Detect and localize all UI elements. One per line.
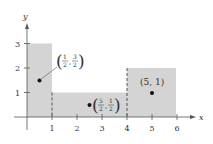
svg-text:,: , <box>105 102 107 110</box>
svg-text:2: 2 <box>73 61 77 68</box>
svg-text:3: 3 <box>73 53 77 60</box>
svg-text:2: 2 <box>109 105 113 112</box>
svg-text:,: , <box>69 58 71 66</box>
y-axis-arrow-icon <box>25 23 29 29</box>
point-3 <box>150 91 154 95</box>
y-tick-label: 2 <box>15 64 20 73</box>
x-tick-label: 3 <box>99 124 104 133</box>
svg-text:(: ( <box>92 95 99 115</box>
x-tick-label: 2 <box>74 124 79 133</box>
chart: 1 2 3 4 5 6 1 2 3 x y ( 1 2 , 3 2 ) ( 5 … <box>0 0 213 144</box>
x-axis-arrow-icon <box>190 115 196 119</box>
svg-text:2: 2 <box>99 105 103 112</box>
point-3-label: (5, 1) <box>140 77 164 87</box>
x-tick-label: 6 <box>174 124 179 133</box>
svg-text:1: 1 <box>63 53 67 60</box>
x-tick-label: 1 <box>49 124 54 133</box>
svg-text:): ) <box>78 51 85 71</box>
x-tick-label: 5 <box>149 124 154 133</box>
svg-text:5: 5 <box>99 97 103 104</box>
svg-text:2: 2 <box>63 61 67 68</box>
point-2 <box>88 103 92 107</box>
x-tick-label: 4 <box>124 124 129 133</box>
x-axis-label: x <box>199 113 204 122</box>
svg-text:): ) <box>114 95 121 115</box>
svg-text:1: 1 <box>109 97 113 104</box>
y-axis-label: y <box>22 12 28 21</box>
point-1-label: ( 1 2 , 3 2 ) <box>56 51 85 71</box>
svg-text:(: ( <box>56 51 63 71</box>
y-tick-label: 1 <box>15 89 20 98</box>
y-tick-label: 3 <box>15 40 20 49</box>
